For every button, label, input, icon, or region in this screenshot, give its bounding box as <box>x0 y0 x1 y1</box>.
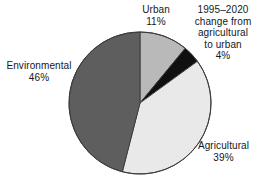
slice-label-environmental: Environmental 46% <box>0 60 78 83</box>
slice-label-urban-value: 11% <box>128 16 184 28</box>
pie-chart: Urban 11% 1995–2020 change from agricult… <box>0 0 261 193</box>
slice-label-change-line2: change from <box>186 16 260 28</box>
slice-label-change-line3: agricultural <box>186 27 260 39</box>
slice-label-change-value: 4% <box>186 50 260 62</box>
slice-label-agricultural-value: 39% <box>186 152 261 164</box>
slice-label-agricultural-name: Agricultural <box>186 140 261 152</box>
slice-label-urban: Urban 11% <box>128 4 184 27</box>
slice-label-environmental-value: 46% <box>0 72 78 84</box>
slice-label-urban-name: Urban <box>128 4 184 16</box>
slice-label-environmental-name: Environmental <box>0 60 78 72</box>
slice-label-change-annotation: 1995–2020 change from agricultural to ur… <box>186 4 260 62</box>
slice-label-change-line4: to urban <box>186 39 260 51</box>
slice-label-agricultural: Agricultural 39% <box>186 140 261 163</box>
slice-label-change-line1: 1995–2020 <box>186 4 260 16</box>
